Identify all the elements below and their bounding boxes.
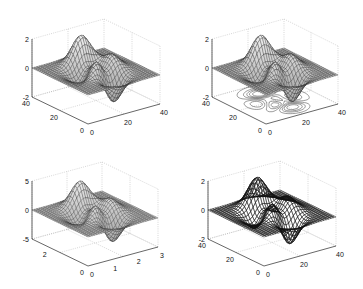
- y-axis: [212, 97, 266, 124]
- grid-line: [212, 19, 338, 46]
- surface-mesh: [212, 35, 338, 101]
- z-tick-label: -5: [23, 236, 29, 243]
- z-tick-label: -2: [199, 236, 205, 243]
- y-axis: [32, 239, 88, 266]
- grid-line: [32, 162, 158, 189]
- x-tick-label: 0: [90, 129, 94, 136]
- x-tick-label: 0: [266, 271, 270, 278]
- y-tick-label: 0: [256, 269, 260, 276]
- x-tick-label: 20: [124, 119, 132, 126]
- figure: 020400204020-2 020400204020-2 01230250-5…: [0, 0, 363, 289]
- y-tick-label: 0: [80, 127, 84, 134]
- x-tick-label: 20: [300, 261, 308, 268]
- y-axis: [32, 97, 88, 124]
- z-tick-label: 2: [201, 178, 205, 185]
- subplot-top-right-surface-contour: 020400204020-2: [202, 19, 346, 136]
- z-tick-label: 0: [25, 207, 29, 214]
- z-tick-label: 2: [205, 36, 209, 43]
- x-tick-label: 20: [302, 119, 310, 126]
- y-tick-label: 0: [80, 269, 84, 276]
- y-tick-label: 40: [202, 100, 210, 107]
- x-tick-label: 2: [137, 258, 141, 265]
- x-tick-label: 40: [336, 251, 344, 258]
- x-axis: [88, 247, 158, 266]
- z-tick-label: 2: [25, 36, 29, 43]
- y-tick-label: 40: [22, 100, 30, 107]
- z-tick-label: -2: [203, 94, 209, 101]
- z-tick-label: -2: [23, 94, 29, 101]
- x-tick-label: 40: [338, 109, 346, 116]
- x-tick-label: 1: [113, 265, 117, 272]
- x-tick-label: 3: [160, 252, 164, 259]
- y-tick-label: 0: [258, 127, 262, 134]
- z-tick-label: 0: [201, 207, 205, 214]
- y-tick-label: 20: [226, 256, 234, 263]
- y-tick-label: 20: [229, 114, 237, 121]
- y-tick-label: 20: [50, 114, 58, 121]
- x-tick-label: 0: [90, 271, 94, 278]
- subplot-top-left-surface: 020400204020-2: [22, 19, 168, 136]
- grid-line: [32, 19, 160, 46]
- x-tick-label: 40: [160, 109, 168, 116]
- z-tick-label: 5: [25, 178, 29, 185]
- y-tick-label: 2: [43, 251, 47, 258]
- z-tick-label: 0: [205, 65, 209, 72]
- subplot-bottom-right-mesh: 020400204020-2: [198, 161, 344, 278]
- surface-mesh: [32, 181, 158, 241]
- x-tick-label: 0: [268, 129, 272, 136]
- y-tick-label: 40: [198, 242, 206, 249]
- z-tick-label: 0: [25, 65, 29, 72]
- subplot-bottom-left-surface: 01230250-5: [23, 162, 164, 278]
- grid-line: [208, 161, 336, 188]
- y-axis: [208, 239, 264, 266]
